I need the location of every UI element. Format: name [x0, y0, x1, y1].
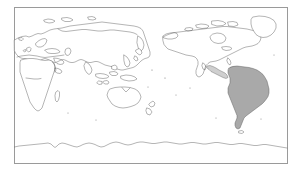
world-map-figure — [0, 0, 302, 176]
world-map-svg — [0, 0, 302, 176]
